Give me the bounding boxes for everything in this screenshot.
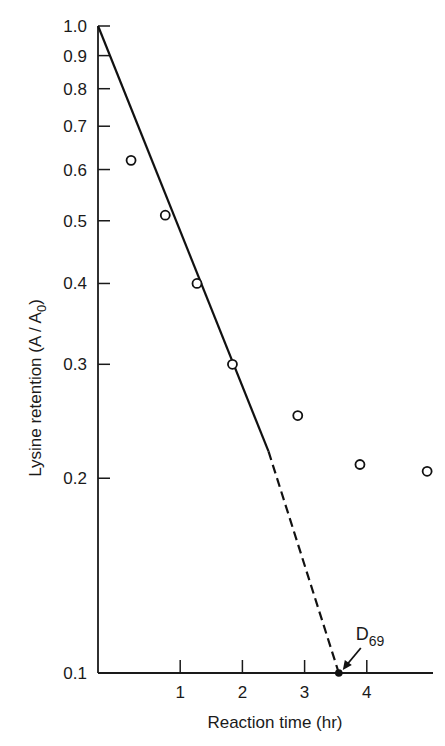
d69-annotation: D69 (335, 624, 385, 677)
y-tick-label: 0.7 (63, 117, 87, 136)
chart-canvas: 0.10.20.30.40.50.60.70.80.91.0 1234 D69 … (0, 0, 445, 746)
data-point (293, 411, 302, 420)
d69-marker (335, 669, 343, 677)
y-axis-ticks: 0.10.20.30.40.50.60.70.80.91.0 (63, 17, 110, 683)
x-tick-label: 1 (175, 683, 184, 702)
axes (98, 26, 433, 673)
y-axis-label-suffix: ) (26, 299, 45, 305)
data-point (192, 279, 201, 288)
x-tick-label: 4 (362, 683, 371, 702)
data-point (127, 156, 136, 165)
y-tick-label: 0.5 (63, 212, 87, 231)
x-tick-label: 3 (300, 683, 309, 702)
y-axis-label-subscript: 0 (34, 305, 49, 312)
y-tick-label: 0.6 (63, 161, 87, 180)
data-point (161, 211, 170, 220)
y-axis-label-main: Lysine retention (A / A (26, 311, 45, 476)
y-tick-label: 1.0 (63, 17, 87, 36)
y-axis-label: Lysine retention (A / A0) (26, 299, 49, 477)
x-tick-label: 2 (238, 683, 247, 702)
y-tick-label: 0.4 (63, 274, 87, 293)
fit-lines (98, 26, 339, 673)
data-point (228, 360, 237, 369)
data-points (127, 156, 432, 476)
extrapolation-line (269, 451, 339, 673)
y-tick-label: 0.9 (63, 47, 87, 66)
y-tick-label: 0.2 (63, 469, 87, 488)
y-tick-label: 0.1 (63, 664, 87, 683)
data-point (423, 467, 432, 476)
y-tick-label: 0.8 (63, 80, 87, 99)
x-axis-label: Reaction time (hr) (207, 713, 342, 732)
data-point (355, 460, 364, 469)
y-tick-label: 0.3 (63, 355, 87, 374)
x-axis-ticks: 1234 (175, 660, 371, 702)
fit-line (98, 26, 268, 451)
d69-label: D69 (356, 624, 385, 649)
